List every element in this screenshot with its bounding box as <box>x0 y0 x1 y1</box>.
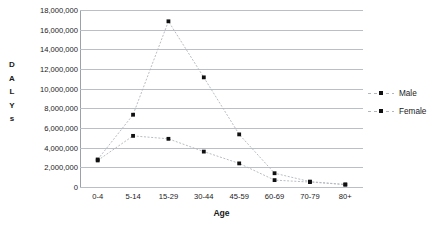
x-axis-tick-label: 60-69 <box>265 192 284 201</box>
chart-legend: Male Female <box>368 84 446 120</box>
y-axis-tick-label: 8,000,000 <box>18 104 78 113</box>
plot-area <box>80 10 363 187</box>
legend-item-male[interactable]: Male <box>368 84 446 102</box>
x-axis-tick-labels: 0-45-1415-2930-4445-5960-6970-7980+ <box>80 192 363 206</box>
y-axis-tick-label: 12,000,000 <box>18 65 78 74</box>
y-axis-tick-label: 2,000,000 <box>18 163 78 172</box>
data-point-female <box>237 132 241 136</box>
data-point-male <box>237 162 241 166</box>
data-point-female <box>96 158 100 162</box>
legend-marker-female-icon <box>368 107 394 116</box>
data-point-female <box>308 180 312 184</box>
data-point-male <box>167 137 171 141</box>
y-axis-tick-label: 14,000,000 <box>18 45 78 54</box>
y-axis-tick-label: 10,000,000 <box>18 84 78 93</box>
legend-label-female: Female <box>394 107 426 116</box>
data-point-male <box>131 134 135 138</box>
series-layer <box>80 10 363 187</box>
y-axis-tick-label: 16,000,000 <box>18 25 78 34</box>
series-line-female <box>98 21 346 184</box>
y-axis-tick-label: 4,000,000 <box>18 143 78 152</box>
y-axis-title-letter-2: L <box>10 85 15 99</box>
x-axis-tick-label: 70-79 <box>300 192 319 201</box>
data-point-female <box>131 113 135 117</box>
x-axis-tick-label: 0-4 <box>92 192 103 201</box>
data-point-female <box>202 75 206 79</box>
x-axis-tick-label: 45-59 <box>229 192 248 201</box>
data-point-female <box>343 183 347 187</box>
legend-label-male: Male <box>394 89 417 98</box>
x-axis-tick-label: 30-44 <box>194 192 213 201</box>
data-point-female <box>273 171 277 175</box>
x-axis-title: Age <box>80 208 363 218</box>
x-axis-tick-label: 5-14 <box>125 192 140 201</box>
y-axis-tick-label: 0 <box>18 183 78 192</box>
data-point-male <box>273 178 277 182</box>
data-point-male <box>202 150 206 154</box>
x-axis-tick-label: 80+ <box>339 192 352 201</box>
legend-marker-male-icon <box>368 89 394 98</box>
y-axis-title-letter-1: A <box>9 72 15 86</box>
data-point-female <box>167 19 171 23</box>
x-axis-tick-label: 15-29 <box>159 192 178 201</box>
y-axis-tick-labels: 02,000,0004,000,0006,000,0008,000,00010,… <box>18 0 78 225</box>
series-line-male <box>98 136 346 185</box>
y-axis-tick-label: 6,000,000 <box>18 124 78 133</box>
y-axis-tick-label: 18,000,000 <box>18 6 78 15</box>
chart-figure: D A L Y s 02,000,0004,000,0006,000,0008,… <box>0 0 447 225</box>
gridline <box>80 187 363 188</box>
legend-item-female[interactable]: Female <box>368 102 446 120</box>
y-axis-title-letter-4: s <box>10 112 14 126</box>
y-axis-title: D A L Y s <box>6 58 18 126</box>
y-axis-title-letter-3: Y <box>9 99 14 113</box>
y-axis-title-letter-0: D <box>9 58 15 72</box>
